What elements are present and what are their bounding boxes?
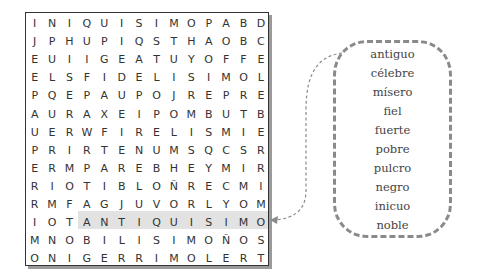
word-item: fiel [336,104,449,118]
word-item: antiguo [336,47,449,61]
word-item: noble [336,218,449,232]
word-item: pulcro [336,161,449,175]
word-item: pobre [336,142,449,156]
word-item: fuerte [336,123,449,137]
word-item: negro [336,180,449,194]
word-item: inicuo [336,199,449,213]
word-item: célebre [336,66,449,80]
word-item: mísero [336,85,449,99]
word-list-box: antiguo célebre mísero fiel fuerte pobre… [333,40,452,238]
